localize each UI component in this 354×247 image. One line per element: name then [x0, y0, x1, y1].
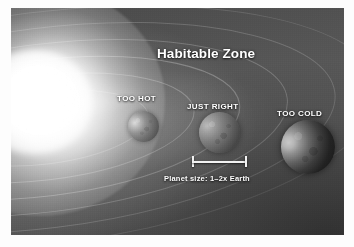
planet-size-scale-bar	[192, 156, 247, 167]
scale-bar-rule	[192, 161, 247, 163]
vignette-overlay	[11, 8, 344, 235]
planet-label-too-cold: TOO COLD	[277, 109, 322, 118]
planet-label-too-hot: TOO HOT	[117, 94, 156, 103]
scale-bar-right-cap	[245, 156, 247, 167]
habitable-zone-illustration: Habitable Zone TOO HOT JUST RIGHT TOO CO…	[11, 8, 344, 235]
planet-size-caption: Planet size: 1–2x Earth	[164, 174, 250, 183]
planet-label-just-right: JUST RIGHT	[187, 102, 239, 111]
figure-title: Habitable Zone	[157, 46, 255, 61]
figure-page: Habitable Zone TOO HOT JUST RIGHT TOO CO…	[0, 0, 354, 247]
